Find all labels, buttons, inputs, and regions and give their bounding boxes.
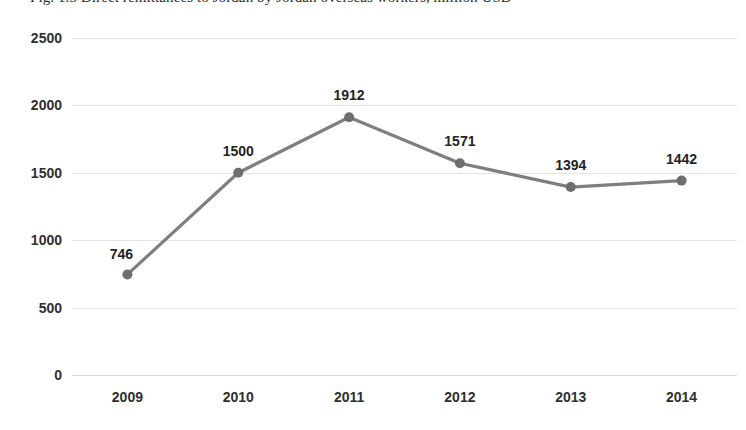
data-point-label: 1442 <box>642 151 722 167</box>
data-point-label: 1912 <box>309 87 389 103</box>
data-point-marker <box>566 182 576 192</box>
series-line-layer <box>0 0 746 430</box>
data-point-marker <box>233 168 243 178</box>
data-point-marker <box>677 176 687 186</box>
data-point-marker <box>344 112 354 122</box>
data-point-label: 1571 <box>420 133 500 149</box>
data-point-marker <box>455 158 465 168</box>
data-point-label: 746 <box>81 246 161 262</box>
series-polyline <box>127 117 681 274</box>
line-chart: 05001000150020002500 2009201020112012201… <box>0 0 746 430</box>
data-point-label: 1394 <box>531 157 611 173</box>
data-point-marker <box>122 269 132 279</box>
data-point-label: 1500 <box>198 143 278 159</box>
series-markers <box>122 112 686 279</box>
